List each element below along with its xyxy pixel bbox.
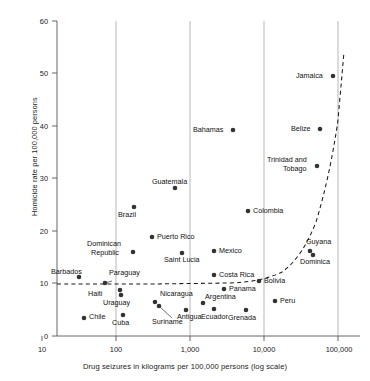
- point-puerto-rico: [150, 235, 155, 240]
- x-tick-100: 100: [96, 345, 136, 354]
- label-nicaragua: Nicaragua: [160, 290, 193, 298]
- label-costa-rica: Costa Rica: [219, 271, 254, 279]
- label-brazil: Brazil: [118, 211, 136, 219]
- scatter-chart: 60 50 40 30 20 10 0 10 100 1,000 10,000 …: [0, 0, 370, 381]
- label-antigua: Antigua: [177, 313, 201, 321]
- label-cuba: Cuba: [112, 319, 129, 327]
- label-peru: Peru: [280, 297, 295, 305]
- label-argentina: Argentina: [205, 293, 236, 301]
- label-dominica: Dominica: [300, 258, 330, 266]
- point-grenada: [244, 308, 249, 313]
- label-uraguay: Uraguay: [103, 299, 130, 307]
- point-costa-rica: [212, 273, 217, 278]
- data-points: [77, 74, 336, 321]
- point-bahamas: [231, 128, 236, 133]
- plot-area: [0, 0, 370, 381]
- x-tick-marks: [42, 336, 338, 341]
- label-chile: Chile: [89, 313, 105, 321]
- label-guatemala: Guatemala: [152, 178, 187, 186]
- label-haiti: Haiti: [88, 290, 102, 298]
- label-ecuador: Ecuador: [201, 313, 228, 321]
- y-axis-title: Homicide rate per 100,000 persons: [30, 47, 39, 267]
- label-trinidad-line2: Tobago: [283, 165, 307, 173]
- label-barbados: Barbados: [51, 268, 82, 276]
- label-bolivia: Bolivia: [264, 277, 285, 285]
- point-dominican-republic: [131, 250, 136, 255]
- point-belize: [318, 127, 323, 132]
- y-tick-60: 60: [24, 17, 48, 26]
- point-colombia: [246, 209, 251, 214]
- x-tick-10000: 10,000: [240, 345, 288, 354]
- point-paraguay: [118, 288, 123, 293]
- label-paraguay: Paraguay: [109, 269, 140, 277]
- point-suriname: [157, 304, 162, 309]
- point-haiti: [103, 281, 108, 286]
- point-panama: [222, 287, 227, 292]
- y-tick-0: 0: [24, 332, 48, 341]
- label-colombia: Colombia: [253, 207, 283, 215]
- point-mexico: [212, 249, 217, 254]
- gridlines: [116, 21, 338, 336]
- label-jamaica: Jamaica: [296, 72, 323, 80]
- label-bahamas: Bahamas: [193, 126, 223, 134]
- axis-lines: [57, 21, 360, 336]
- y-tick-marks: [52, 21, 57, 336]
- point-trinidad-and-tobago: [315, 164, 320, 169]
- x-tick-100000: 100,000: [312, 345, 366, 354]
- x-tick-10: 10: [22, 345, 62, 354]
- label-mexico: Mexico: [219, 247, 242, 255]
- label-guyana: Guyana: [306, 238, 331, 246]
- point-peru: [273, 299, 278, 304]
- point-ecuador: [212, 307, 217, 312]
- point-uraguay: [119, 293, 124, 298]
- point-bolivia: [257, 279, 262, 284]
- point-nicaragua: [153, 300, 158, 305]
- point-jamaica: [331, 74, 336, 79]
- label-dominican-republic-line2: Republic: [91, 249, 119, 257]
- point-brazil: [132, 205, 137, 210]
- label-saint-lucia: Saint Lucia: [164, 256, 200, 264]
- point-chile: [82, 316, 87, 321]
- point-guyana: [308, 249, 313, 254]
- label-belize: Belize: [291, 125, 311, 133]
- x-axis-title: Drug seizures in kilograms per 100,000 p…: [0, 362, 370, 371]
- point-cuba: [121, 313, 126, 318]
- x-tick-1000: 1,000: [167, 345, 213, 354]
- label-panama: Panama: [229, 285, 256, 293]
- label-grenada: Grenada: [228, 314, 256, 322]
- label-puerto-rico: Puerto Rico: [157, 233, 195, 241]
- y-tick-10: 10: [24, 279, 48, 288]
